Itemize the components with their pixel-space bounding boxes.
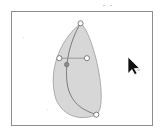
node-bottom-anchor[interactable] <box>94 112 99 117</box>
node-top-anchor[interactable] <box>78 21 83 26</box>
node-right-handle[interactable] <box>84 56 89 61</box>
crescent-shape-path[interactable] <box>53 23 101 117</box>
speck-0 <box>103 5 105 6</box>
node-left-handle[interactable] <box>57 56 62 61</box>
drawing-canvas[interactable] <box>11 11 153 126</box>
vector-stage[interactable] <box>12 12 152 125</box>
speck-1 <box>110 5 112 6</box>
node-mid-anchor[interactable] <box>65 62 69 66</box>
vector-editor-window <box>0 0 163 137</box>
